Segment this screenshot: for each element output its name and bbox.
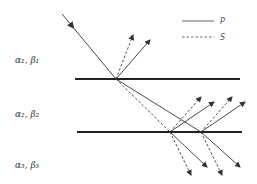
transmitted-p-ray-2a — [170, 132, 207, 167]
incident-p-ray — [62, 14, 116, 79]
layer-2-label: α₂, β₂ — [15, 109, 40, 119]
layer-1-label: α₁, β₁ — [15, 55, 39, 65]
transmitted-s-ray-1 — [116, 79, 170, 132]
legend: P S — [182, 17, 225, 42]
transmitted-s-ray-2a — [170, 132, 191, 175]
layer-3-label: α₃, β₃ — [15, 160, 40, 170]
transmitted-p-ray-1 — [116, 79, 201, 132]
wave-diagram: α₁, β₁ α₂, β₂ α₃, β₃ P S — [0, 0, 257, 184]
reflected-p-ray-1 — [116, 40, 150, 79]
legend-p-label: P — [220, 17, 225, 26]
transmitted-s-ray-2b — [201, 132, 222, 175]
legend-s-label: S — [220, 33, 225, 42]
reflected-s-ray-1 — [116, 35, 133, 79]
transmitted-p-ray-2b — [201, 132, 240, 167]
